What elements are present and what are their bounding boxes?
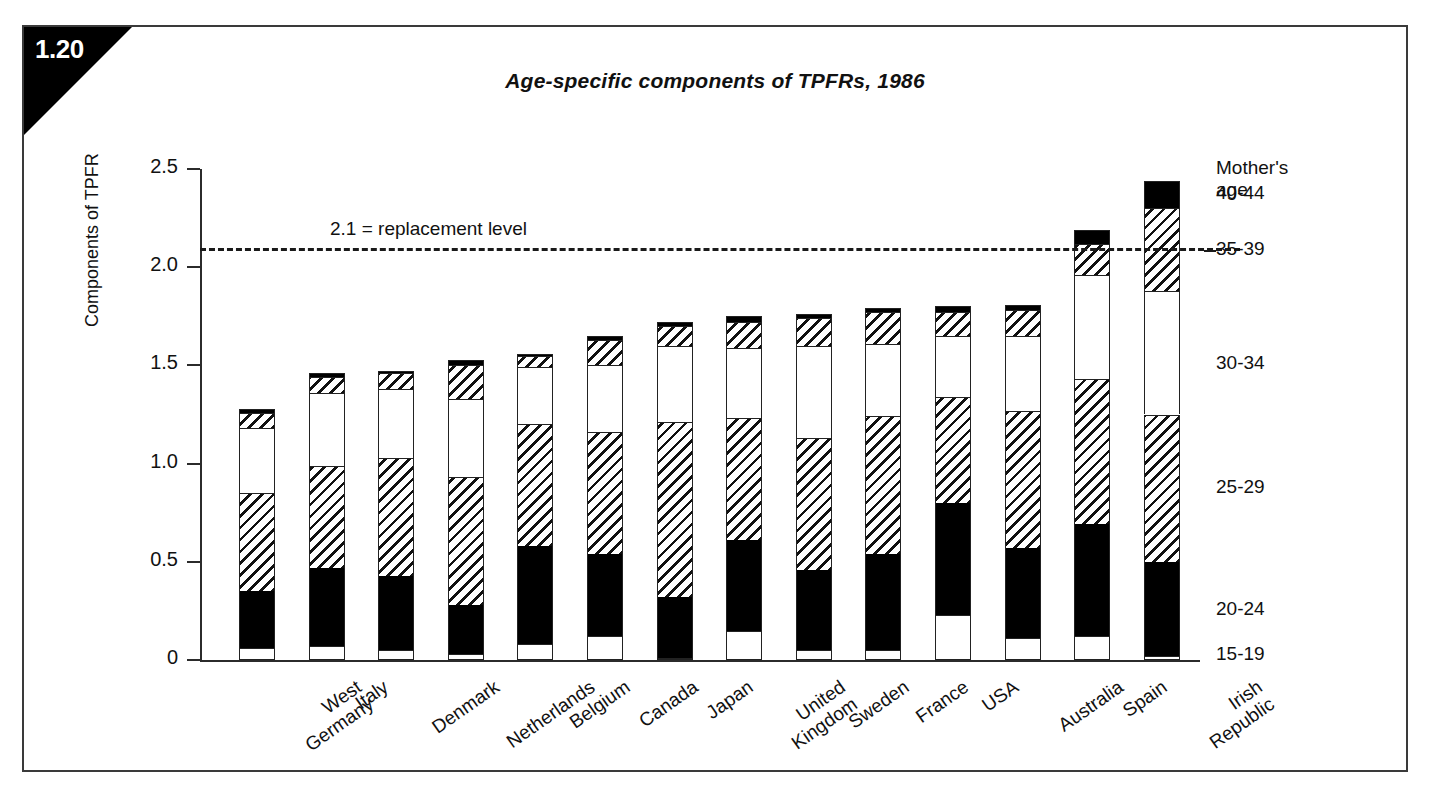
x-tick-label: IrishRepublic: [1193, 676, 1278, 753]
bar-segment-40-44: [517, 354, 553, 356]
bar-segment-40-44: [1144, 181, 1180, 208]
bar-belgium: [517, 169, 553, 660]
legend-pointer-tick: [1204, 250, 1216, 252]
bar-segment-30-34: [796, 346, 832, 438]
bar-usa: [935, 169, 971, 660]
y-tick-mark: [187, 168, 200, 170]
x-tick-label: Spain: [1119, 676, 1171, 721]
y-tick-mark: [187, 463, 200, 465]
bar-japan: [657, 169, 693, 660]
y-tick-label: 0.5: [116, 548, 178, 571]
legend-item-30-34: 30-34: [1216, 352, 1265, 374]
bar-segment-30-34: [1144, 291, 1180, 415]
x-tick-label: Canada: [635, 676, 702, 732]
bar-segment-25-29: [935, 397, 971, 503]
bar-segment-20-24: [239, 591, 275, 648]
bar-segment-35-39: [935, 312, 971, 336]
bar-segment-25-29: [796, 438, 832, 570]
bar-segment-40-44: [796, 314, 832, 318]
bar-segment-25-29: [726, 418, 762, 540]
bar-segment-20-24: [726, 540, 762, 630]
legend-item-25-29: 25-29: [1216, 476, 1265, 498]
bar-segment-30-34: [935, 336, 971, 397]
x-tick-label: Australia: [1054, 676, 1127, 736]
x-tick-label: USA: [978, 676, 1022, 716]
y-tick-label: 0: [116, 646, 178, 669]
bar-segment-35-39: [239, 413, 275, 429]
bar-segment-40-44: [448, 360, 484, 366]
bar-segment-35-39: [726, 322, 762, 348]
bar-segment-30-34: [726, 348, 762, 419]
bar-segment-20-24: [865, 554, 901, 650]
legend-item-15-19: 15-19: [1216, 643, 1265, 665]
bar-segment-25-29: [1005, 411, 1041, 548]
bar-segment-20-24: [1144, 562, 1180, 656]
bar-segment-30-34: [378, 389, 414, 458]
x-axis-line: [200, 660, 1200, 662]
bar-segment-35-39: [1005, 310, 1041, 336]
chart-title: Age-specific components of TPFRs, 1986: [24, 69, 1406, 93]
replacement-level-label: 2.1 = replacement level: [330, 218, 527, 240]
y-tick-mark: [187, 561, 200, 563]
bar-segment-15-19: [239, 648, 275, 660]
bar-segment-30-34: [448, 399, 484, 478]
bar-segment-15-19: [726, 631, 762, 660]
bar-segment-40-44: [657, 322, 693, 326]
x-tick-label: France: [912, 676, 973, 727]
bar-spain: [1074, 169, 1110, 660]
bar-segment-20-24: [587, 554, 623, 636]
bar-segment-40-44: [378, 371, 414, 373]
bar-segment-20-24: [657, 597, 693, 658]
bar-segment-40-44: [935, 306, 971, 312]
bar-segment-30-34: [517, 367, 553, 424]
legend-item-40-44: 40-44: [1216, 182, 1265, 204]
bar-segment-15-19: [1144, 656, 1180, 660]
bar-segment-35-39: [657, 326, 693, 346]
bar-segment-15-19: [1005, 638, 1041, 660]
bar-segment-20-24: [796, 570, 832, 651]
bar-sweden: [796, 169, 832, 660]
y-tick-label: 1.5: [116, 351, 178, 374]
bar-segment-25-29: [448, 477, 484, 605]
bar-segment-25-29: [1144, 415, 1180, 562]
bar-segment-15-19: [657, 658, 693, 660]
y-axis-title: Components of TPFR: [82, 27, 103, 327]
bar-segment-15-19: [865, 650, 901, 660]
bar-segment-35-39: [796, 318, 832, 345]
bar-segment-40-44: [1005, 305, 1041, 311]
legend-item-35-39: 35-39: [1216, 238, 1265, 260]
bar-segment-30-34: [1005, 336, 1041, 411]
bar-segment-20-24: [517, 546, 553, 644]
figure-number-label: 1.20: [35, 34, 84, 65]
legend-title-line1: Mother's: [1216, 157, 1288, 179]
bar-segment-20-24: [935, 503, 971, 615]
y-tick-label: 2.0: [116, 253, 178, 276]
bar-segment-35-39: [865, 312, 901, 343]
bar-segment-25-29: [587, 432, 623, 554]
bar-france: [865, 169, 901, 660]
bar-segment-25-29: [309, 466, 345, 568]
bar-segment-25-29: [517, 424, 553, 546]
bar-segment-30-34: [239, 428, 275, 493]
bar-segment-35-39: [448, 365, 484, 398]
bar-segment-40-44: [309, 373, 345, 377]
bar-segment-40-44: [1074, 230, 1110, 244]
bar-segment-20-24: [448, 605, 484, 654]
bar-segment-25-29: [1074, 379, 1110, 524]
bar-segment-35-39: [517, 356, 553, 368]
bar-segment-20-24: [309, 568, 345, 647]
bar-segment-35-39: [587, 340, 623, 366]
bar-segment-40-44: [865, 308, 901, 312]
bar-italy: [309, 169, 345, 660]
x-tick-label: Japan: [702, 676, 757, 723]
bar-irish-republic: [1144, 169, 1180, 660]
y-tick-label: 1.0: [116, 450, 178, 473]
bar-segment-20-24: [1005, 548, 1041, 638]
bar-segment-30-34: [587, 365, 623, 432]
bar-segment-15-19: [309, 646, 345, 660]
bar-segment-40-44: [587, 336, 623, 340]
bar-segment-20-24: [1074, 524, 1110, 636]
bar-segment-40-44: [239, 409, 275, 413]
figure-panel: 1.20 Age-specific components of TPFRs, 1…: [22, 25, 1408, 772]
bar-segment-15-19: [517, 644, 553, 660]
